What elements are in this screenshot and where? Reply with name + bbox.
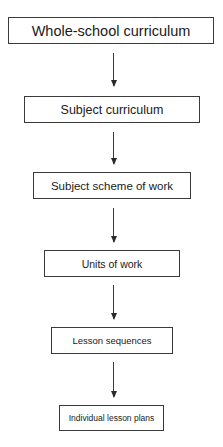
arrow-down-icon	[113, 53, 114, 86]
arrow-down-icon	[113, 362, 114, 397]
arrow-down-icon	[113, 208, 114, 242]
node-label: Units of work	[82, 258, 143, 270]
node-units-of-work: Units of work	[44, 250, 180, 277]
node-whole-school-curriculum: Whole-school curriculum	[8, 17, 214, 44]
node-label: Individual lesson plans	[69, 413, 155, 423]
node-label: Whole-school curriculum	[32, 23, 191, 39]
arrow-down-icon	[113, 132, 114, 164]
node-label: Subject curriculum	[61, 103, 164, 117]
node-label: Lesson sequences	[72, 335, 151, 346]
node-lesson-sequences: Lesson sequences	[51, 327, 173, 354]
node-subject-curriculum: Subject curriculum	[24, 96, 200, 123]
node-label: Subject scheme of work	[51, 180, 173, 192]
node-subject-scheme-of-work: Subject scheme of work	[33, 172, 191, 199]
arrow-down-icon	[113, 285, 114, 319]
node-individual-lesson-plans: Individual lesson plans	[59, 405, 164, 431]
